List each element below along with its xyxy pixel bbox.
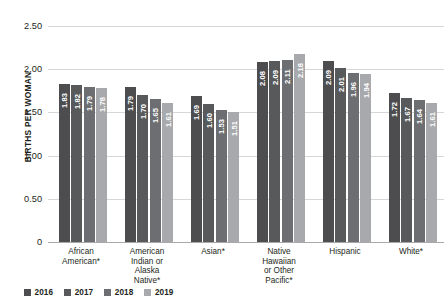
bar-value-label: 1.70	[138, 104, 147, 119]
bar-group: 2.092.011.961.94	[323, 26, 372, 242]
gridline	[48, 199, 444, 200]
bar-group: 2.082.092.112.18	[257, 26, 306, 242]
bar-value-label: 2.09	[324, 70, 333, 85]
bar-value-label: 1.82	[72, 94, 81, 109]
x-category-label: White*	[378, 247, 444, 257]
legend-swatch-icon	[64, 289, 71, 296]
bar-value-label: 2.01	[336, 77, 345, 92]
y-tick-label: 2.50	[2, 21, 42, 31]
gridline	[48, 156, 444, 157]
legend-label: 2019	[155, 288, 174, 297]
bar-value-label: 2.18	[295, 63, 304, 78]
bar[interactable]: 2.18	[294, 54, 305, 242]
x-category-label: AfricanAmerican*	[48, 247, 114, 266]
bar[interactable]: 1.83	[59, 84, 70, 242]
bar-group: 1.831.821.791.78	[59, 26, 108, 242]
bar[interactable]: 1.60	[203, 104, 214, 242]
legend-swatch-icon	[144, 289, 151, 296]
bar[interactable]: 2.01	[335, 68, 346, 242]
legend-item[interactable]: 2019	[144, 288, 173, 297]
legend-label: 2017	[75, 288, 94, 297]
legend-swatch-icon	[104, 289, 111, 296]
x-category-label: Hispanic	[312, 247, 378, 257]
bar[interactable]: 2.09	[269, 61, 280, 242]
bar-value-label: 1.51	[229, 120, 238, 135]
gridline	[48, 112, 444, 113]
legend-swatch-icon	[24, 289, 31, 296]
bar-value-label: 1.60	[204, 113, 213, 128]
bar-value-label: 1.79	[85, 96, 94, 111]
bar-value-label: 1.69	[192, 105, 201, 120]
bar[interactable]: 1.94	[360, 74, 371, 242]
bar[interactable]: 2.09	[323, 61, 334, 242]
bar-value-label: 2.09	[270, 70, 279, 85]
bar[interactable]: 1.79	[84, 87, 95, 242]
y-tick-label: 0.50	[2, 194, 42, 204]
y-tick-label: 1.00	[2, 151, 42, 161]
bar-value-label: 1.79	[126, 96, 135, 111]
fertility-rate-bar-chart: BIRTHS PER WOMAN 00.501.001.502.002.50 1…	[0, 0, 448, 306]
bar[interactable]: 1.65	[150, 99, 161, 242]
bar[interactable]: 1.96	[348, 73, 359, 242]
bar[interactable]: 2.11	[282, 60, 293, 242]
x-category-label: AmericanIndian orAlaskaNative*	[114, 247, 180, 285]
bar-value-label: 1.83	[60, 93, 69, 108]
plot-area: 1.831.821.791.781.791.701.651.611.691.60…	[48, 26, 444, 242]
bar[interactable]: 1.78	[96, 88, 107, 242]
bar[interactable]: 1.79	[125, 87, 136, 242]
bar-value-label: 1.96	[349, 82, 358, 97]
bar[interactable]: 1.51	[228, 112, 239, 242]
bar[interactable]: 1.72	[389, 93, 400, 242]
bar[interactable]: 1.53	[216, 110, 227, 242]
bar[interactable]: 1.70	[137, 95, 148, 242]
bar-group: 1.791.701.651.61	[125, 26, 174, 242]
bar[interactable]: 1.61	[426, 103, 437, 242]
legend-item[interactable]: 2016	[24, 288, 53, 297]
bar-value-label: 1.61	[163, 112, 172, 127]
x-category-label: Asian*	[180, 247, 246, 257]
axis-baseline	[48, 242, 444, 243]
bar-value-label: 1.64	[415, 109, 424, 124]
gridline	[48, 69, 444, 70]
bar[interactable]: 1.69	[191, 96, 202, 242]
bar[interactable]: 2.08	[257, 62, 268, 242]
bar[interactable]: 1.82	[71, 85, 82, 242]
gridline	[48, 26, 444, 27]
bar-value-label: 1.94	[361, 83, 370, 98]
bar[interactable]: 1.64	[414, 100, 425, 242]
bar-value-label: 1.53	[217, 119, 226, 134]
x-category-label: NativeHawaiianor OtherPacific*	[246, 247, 312, 285]
legend-label: 2018	[115, 288, 134, 297]
legend-label: 2016	[35, 288, 54, 297]
legend-item[interactable]: 2018	[104, 288, 133, 297]
bar[interactable]: 1.67	[401, 98, 412, 242]
bar-group: 1.691.601.531.51	[191, 26, 240, 242]
y-tick-label: 2.00	[2, 64, 42, 74]
y-tick-label: 0	[2, 237, 42, 247]
bar-value-label: 2.08	[258, 71, 267, 86]
bar-value-label: 1.67	[402, 107, 411, 122]
bar-value-label: 1.65	[151, 108, 160, 123]
bar-value-label: 2.11	[283, 69, 292, 84]
y-tick-label: 1.50	[2, 107, 42, 117]
bar[interactable]: 1.61	[162, 103, 173, 242]
legend-item[interactable]: 2017	[64, 288, 93, 297]
bar-value-label: 1.72	[390, 102, 399, 117]
chart-legend: 2016201720182019	[24, 288, 174, 297]
bar-value-label: 1.61	[427, 112, 436, 127]
bar-group: 1.721.671.641.61	[389, 26, 438, 242]
bar-value-label: 1.78	[97, 97, 106, 112]
